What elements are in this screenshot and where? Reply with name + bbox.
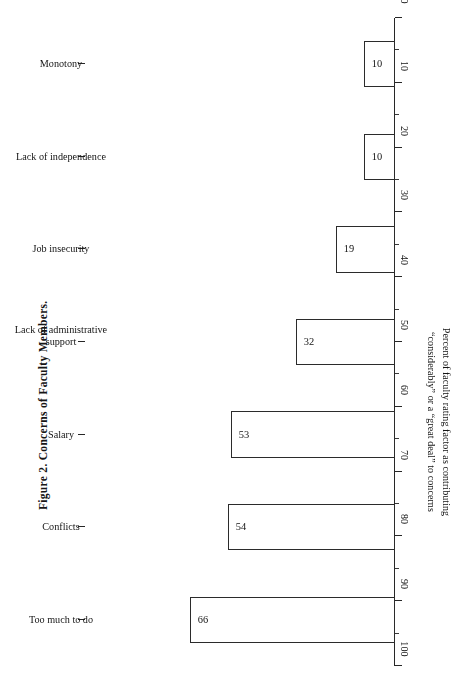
category-label: Conflicts [1,521,121,533]
axis-tick-label: 80 [398,502,410,536]
value-axis-title: Percent of faculty rating factor as cont… [423,188,453,658]
category-label: Too much to do [1,614,121,626]
bar[interactable] [190,597,395,643]
bar-row[interactable]: 54 [85,504,395,550]
bar-row[interactable]: 66 [85,597,395,643]
category-label: Job insecurity [1,243,121,255]
axis-tick-label: 100 [398,632,410,666]
axis-tick-label: 30 [398,178,410,212]
axis-tick-label: 50 [398,308,410,342]
bar-value-label: 54 [228,520,254,534]
chart-canvas: Percent of faculty rating factor as cont… [55,18,453,666]
category-label: Lack of independence [1,151,121,163]
axis-tick-label: 0 [398,0,410,18]
bars-container: 10101932535466 [85,18,395,666]
category-axis: MonotonyLack of independenceJob insecuri… [55,18,85,666]
axis-tick-label: 40 [398,243,410,277]
plot-area: Percent of faculty rating factor as cont… [55,18,453,666]
category-label: Lack of administrative support [1,324,121,348]
bar-row[interactable]: 10 [85,134,395,180]
category-label: Monotony [1,58,121,70]
axis-tick-label: 70 [398,438,410,472]
bar-value-label: 19 [336,242,362,256]
axis-tick-label: 10 [398,49,410,83]
bar-row[interactable]: 19 [85,226,395,272]
bar-value-label: 10 [364,57,390,71]
bar-row[interactable]: 32 [85,319,395,365]
value-axis-title-line2: “considerably” or a “great deal” to conc… [424,187,439,657]
bar-row[interactable]: 53 [85,411,395,457]
bar-value-label: 53 [231,428,257,442]
axis-tick-label: 20 [398,114,410,148]
axis-tick-label: 90 [398,567,410,601]
axis-tick-label: 60 [398,373,410,407]
bar-value-label: 66 [190,613,216,627]
bar-row[interactable]: 10 [85,41,395,87]
value-axis-title-line1: Percent of faculty rating factor as cont… [439,187,454,657]
category-label: Salary [1,429,121,441]
bar-value-label: 10 [364,150,390,164]
value-axis-scale: 0102030405060708090100 [395,18,423,666]
bar-value-label: 32 [296,335,322,349]
